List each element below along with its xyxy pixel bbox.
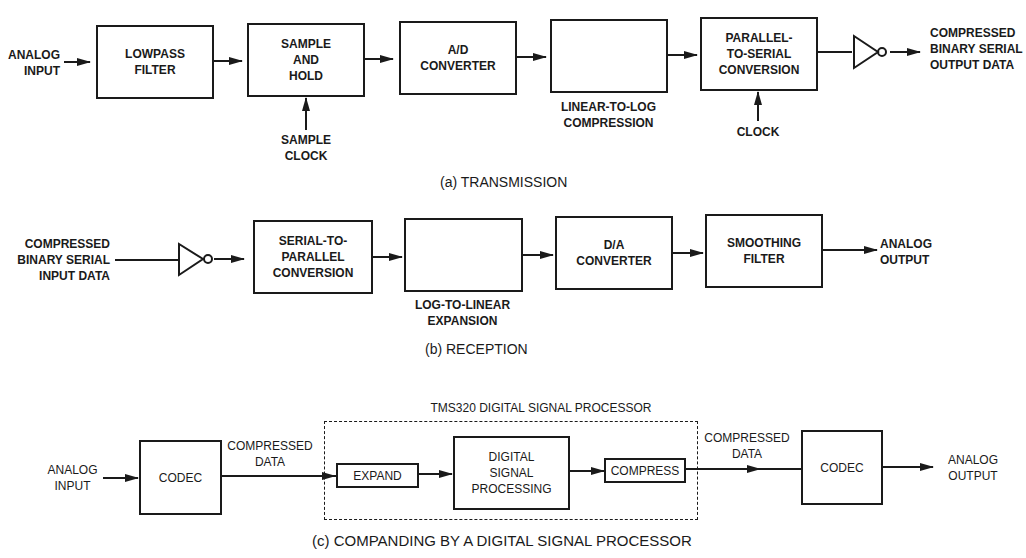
log-to-linear-expansion-block xyxy=(404,218,523,292)
ad-converter-block: A/D CONVERTER xyxy=(399,21,517,95)
linear-to-log-compression-block xyxy=(550,19,668,93)
log-to-linear-label: LOG-TO-LINEAR EXPANSION xyxy=(400,297,525,329)
smoothing-filter-block: SMOOTHING FILTER xyxy=(705,214,823,288)
sample-clock-label: SAMPLE CLOCK xyxy=(266,132,346,164)
tms320-title: TMS320 DIGITAL SIGNAL PROCESSOR xyxy=(391,400,691,416)
compressed-output-label: COMPRESSED BINARY SERIAL OUTPUT DATA xyxy=(930,25,1026,73)
compress-block: COMPRESS xyxy=(604,458,686,483)
parallel-to-serial-block: PARALLEL- TO-SERIAL CONVERSION xyxy=(700,17,818,91)
da-converter-block: D/A CONVERTER xyxy=(555,216,673,290)
linear-to-log-label: LINEAR-TO-LOG COMPRESSION xyxy=(546,99,671,131)
analog-output-label: ANALOG OUTPUT xyxy=(880,236,960,268)
lowpass-filter-block: LOWPASS FILTER xyxy=(96,25,214,99)
expand-block: EXPAND xyxy=(336,463,419,488)
clock-label: CLOCK xyxy=(728,124,788,140)
analog-output-label-c: ANALOG OUTPUT xyxy=(938,452,1008,484)
sample-and-hold-block: SAMPLE AND HOLD xyxy=(247,23,365,97)
analog-input-label: ANALOG INPUT xyxy=(0,47,60,79)
dsp-processing-block: DIGITAL SIGNAL PROCESSING xyxy=(453,436,570,510)
compressed-input-label: COMPRESSED BINARY SERIAL INPUT DATA xyxy=(0,236,110,284)
serial-to-parallel-block: SERIAL-TO- PARALLEL CONVERSION xyxy=(253,220,373,294)
compressed-data-out-label: COMPRESSED DATA xyxy=(702,430,792,462)
codec-in-block: CODEC xyxy=(139,440,222,515)
compressed-data-in-label: COMPRESSED DATA xyxy=(225,438,315,470)
transmission-caption: (a) TRANSMISSION xyxy=(440,174,567,190)
analog-input-label-c: ANALOG INPUT xyxy=(40,462,105,494)
reception-caption: (b) RECEPTION xyxy=(425,341,528,357)
codec-out-block: CODEC xyxy=(801,430,883,505)
companding-caption: (c) COMPANDING BY A DIGITAL SIGNAL PROCE… xyxy=(312,532,692,549)
